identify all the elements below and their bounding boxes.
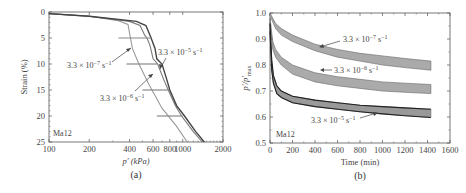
annotation-rate-7: 3.3 × 10−7 s−1 [67, 60, 111, 70]
y-tick-label: 0.9 [255, 34, 266, 44]
plot-b-normalized-p-vs-time: 0.50.60.70.80.91.00200400600800100012001… [240, 8, 459, 182]
x-tick-label: 800 [354, 145, 367, 155]
y-tick-label: 20 [37, 111, 46, 121]
x-axis-label: Time (min) [341, 157, 380, 167]
annotation-rate-6: 3.3 × 10−6 s−1 [334, 65, 378, 75]
plot-a-strain-vs-p: 051015202510020040060080010002000Strain … [19, 7, 232, 181]
y-tick-label: 5 [41, 33, 45, 43]
x-tick-label: 2000 [215, 144, 232, 154]
series-line-1 [49, 14, 202, 142]
x-tick-label: 1000 [174, 144, 191, 154]
y-tick-label: 0.6 [255, 112, 266, 122]
y-tick-label: 0 [41, 7, 45, 17]
x-tick-label: 200 [83, 144, 96, 154]
plot-a-frame [49, 12, 223, 142]
specimen-label: Ma12 [276, 130, 295, 139]
panel-label-b: (b) [354, 170, 366, 182]
y-tick-label: 15 [37, 85, 46, 95]
y-axis-label: p′/p′max [240, 66, 252, 92]
panel-label-a: (a) [130, 169, 141, 181]
x-tick-label: 1200 [397, 145, 414, 155]
x-axis-label: p′ (kPa) [121, 156, 149, 166]
y-tick-label: 0.5 [255, 138, 266, 148]
y-tick-label: 10 [37, 59, 46, 69]
y-tick-label: 0.8 [255, 60, 266, 70]
x-tick-label: 100 [43, 144, 56, 154]
specimen-label: Ma12 [53, 129, 72, 138]
x-tick-label: 1000 [374, 145, 391, 155]
x-tick-label: 600 [331, 145, 344, 155]
x-tick-label: 200 [286, 145, 299, 155]
x-tick-label: 400 [309, 145, 322, 155]
figure: 051015202510020040060080010002000Strain … [0, 0, 466, 193]
annotation-rate-5: 3.3 × 10−5 s−1 [158, 47, 202, 57]
y-tick-label: 0.7 [255, 86, 266, 96]
annotation-rate-5: 3.3 × 10−5 s−1 [311, 115, 355, 125]
y-axis-label: Strain (%) [19, 59, 29, 94]
y-tick-label: 1.0 [255, 8, 266, 18]
x-tick-label: 600 [147, 144, 160, 154]
series-line-2 [49, 14, 204, 142]
x-tick-label: 1600 [442, 145, 459, 155]
x-tick-label: 0 [268, 145, 272, 155]
x-tick-label: 400 [123, 144, 136, 154]
annotation-rate-6: 3.3 × 10−6 s−1 [100, 93, 144, 103]
x-tick-label: 1400 [419, 145, 436, 155]
plot-b-frame [270, 13, 450, 143]
annotation-rate-7: 3.3 × 10−7 s−1 [343, 34, 387, 44]
